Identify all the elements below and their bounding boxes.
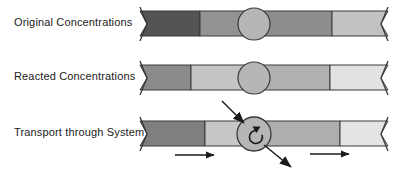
concentration-transport-diagram: Original Concentrations Reacted Concentr…	[0, 0, 401, 176]
outflow-arrow	[264, 145, 291, 167]
bar-segment-1	[140, 121, 205, 146]
bar-transport-through-system	[0, 0, 401, 176]
inflow-arrow	[222, 101, 244, 123]
